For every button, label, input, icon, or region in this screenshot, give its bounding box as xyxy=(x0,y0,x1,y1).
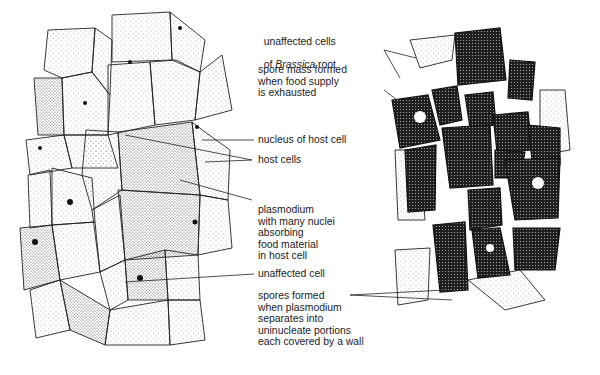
left-tissue xyxy=(20,12,232,345)
label-nucleus-host-cell: nucleus of host cell xyxy=(258,134,346,146)
label-spore-mass: spore mass formed when food supply is ex… xyxy=(258,64,347,99)
label-host-cells: host cells xyxy=(258,154,301,166)
label-unaffected-cell: unaffected cell xyxy=(258,268,325,280)
label-plasmodium: plasmodium with many nuclei absorbing fo… xyxy=(258,204,335,262)
label-unaffected-cells-line1: unaffected cells xyxy=(264,36,336,47)
right-tissue xyxy=(392,28,570,310)
label-spores-formed: spores formed when plasmodium separates … xyxy=(258,290,364,348)
